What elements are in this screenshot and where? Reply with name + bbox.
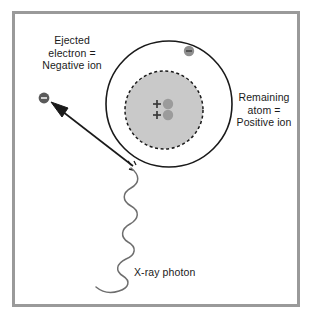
label-xray-photon: X-ray photon — [134, 266, 226, 279]
neutron-upper — [163, 99, 173, 109]
neutron-lower — [163, 110, 173, 120]
xray-photon-wave — [96, 168, 138, 292]
orbiting-electron — [184, 46, 194, 56]
nucleus-dashed-circle — [125, 71, 203, 149]
ejected-electron — [39, 93, 50, 104]
label-ejected-electron: Ejected electron = Negative ion — [24, 34, 120, 72]
label-remaining-atom: Remaining atom = Positive ion — [222, 91, 306, 129]
ejection-arrow — [51, 102, 133, 166]
figure-root: Ejected electron = Negative ion Remainin… — [0, 0, 314, 322]
